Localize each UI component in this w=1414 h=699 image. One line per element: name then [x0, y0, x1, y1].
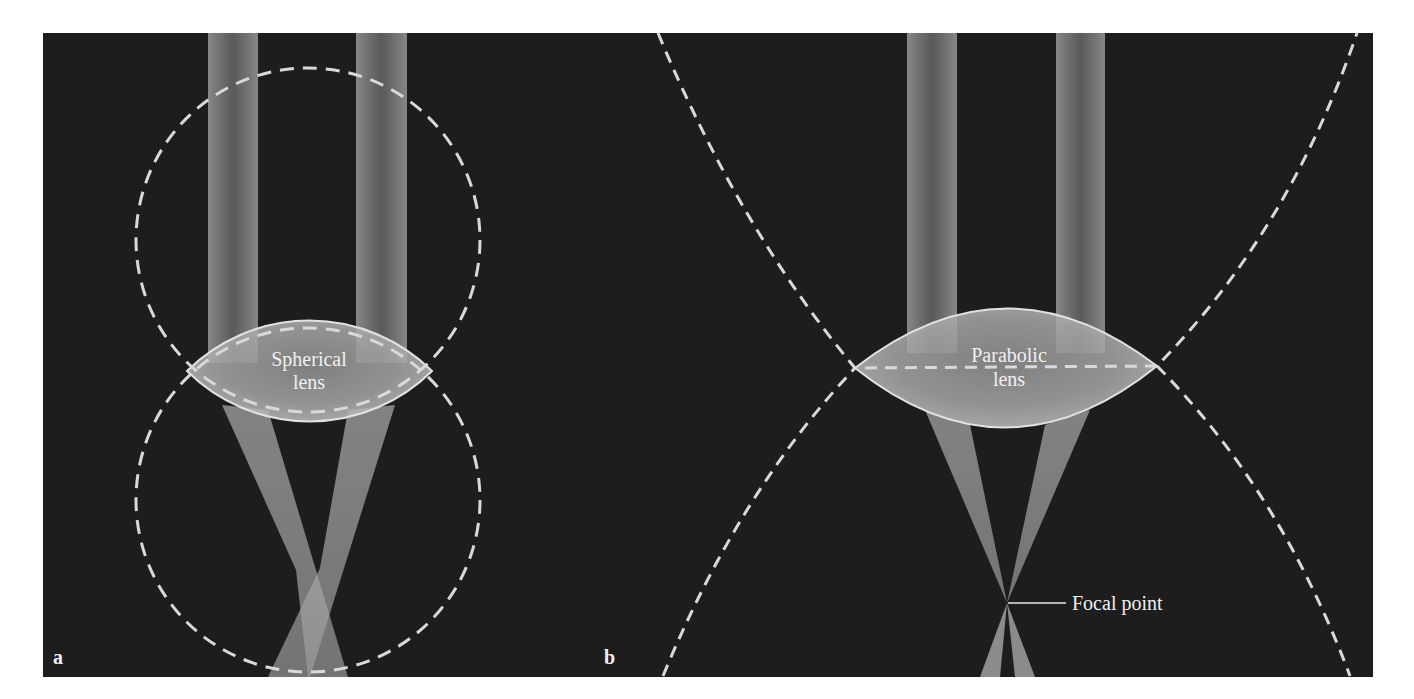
parabolic-lens-label-line2: lens — [993, 368, 1025, 390]
incoming-beam-left — [208, 33, 258, 363]
panel-b-label: b — [604, 646, 615, 668]
parabolic-lens-label-line1: Parabolic — [971, 344, 1047, 366]
spherical-lens-label-line1: Spherical — [271, 348, 347, 371]
incoming-beam-left — [907, 33, 957, 353]
lens-comparison-diagram: Spherical lens a Parabolic lens Focal po… — [0, 0, 1414, 699]
spherical-lens-label-line2: lens — [293, 371, 325, 393]
focal-point-label: Focal point — [1072, 592, 1163, 615]
panel-a-label: a — [53, 646, 63, 668]
incoming-beam-right — [1056, 33, 1105, 353]
incoming-beam-right — [356, 33, 407, 363]
